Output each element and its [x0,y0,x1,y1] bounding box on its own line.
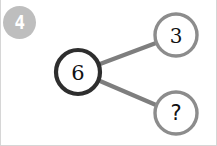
edge-root-to-3 [100,43,156,64]
diagram-canvas: 4 6 3 ? [0,0,217,146]
node-child-bottom-label: ? [170,101,181,125]
edge-root-to-unknown [100,81,156,105]
node-link-diagram: 6 3 ? [1,0,217,146]
edges-group [100,43,156,105]
node-child-bottom[interactable]: ? [155,92,197,134]
node-child-top[interactable]: 3 [155,14,197,56]
node-root[interactable]: 6 [56,50,100,94]
node-child-top-label: 3 [170,24,183,48]
node-root-label: 6 [71,61,84,85]
